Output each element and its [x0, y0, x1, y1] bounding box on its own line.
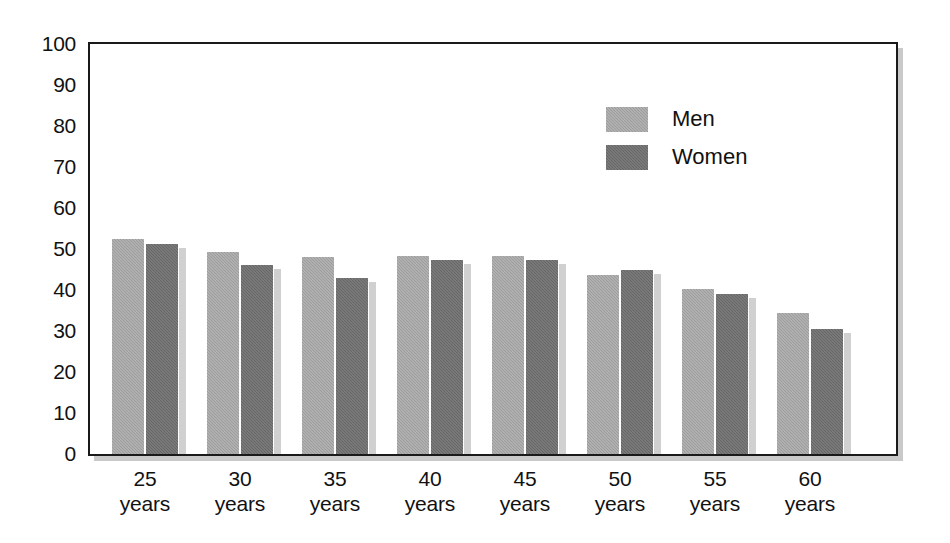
bar-women-35: [336, 278, 368, 454]
bar-group: [777, 44, 852, 454]
x-axis-label-25: 25years: [90, 466, 200, 516]
x-axis-label-60: 60years: [755, 466, 865, 516]
legend-item-women: Women: [606, 138, 747, 176]
bar-group: [492, 44, 567, 454]
x-axis-label-unit: years: [565, 491, 675, 516]
bar-shadow: [274, 269, 281, 454]
bar-chart-figure: 0102030405060708090100 25years30years35y…: [0, 0, 950, 543]
bar-women-45: [526, 260, 558, 454]
x-axis-label-number: 60: [755, 466, 865, 491]
bar-women-25: [146, 244, 178, 454]
bar-men-25: [112, 239, 144, 454]
bar-shadow: [559, 264, 566, 454]
bar-shadow: [179, 248, 186, 454]
x-axis-label-unit: years: [90, 491, 200, 516]
x-axis-label-unit: years: [375, 491, 485, 516]
y-axis-tick-label: 70: [0, 156, 76, 177]
bar-men-45: [492, 256, 524, 454]
bar-women-40: [431, 260, 463, 454]
legend-swatch-men-icon: [606, 107, 648, 132]
bar-women-60: [811, 329, 843, 454]
x-axis-label-number: 45: [470, 466, 580, 491]
x-axis-label-30: 30years: [185, 466, 295, 516]
x-axis-label-35: 35years: [280, 466, 390, 516]
bar-men-40: [397, 256, 429, 454]
chart-legend: Men Women: [606, 100, 747, 176]
x-axis-label-number: 40: [375, 466, 485, 491]
y-axis-tick-label: 10: [0, 402, 76, 423]
x-axis-label-number: 50: [565, 466, 675, 491]
y-axis-tick-label: 30: [0, 320, 76, 341]
x-axis-label-number: 25: [90, 466, 200, 491]
bar-men-30: [207, 252, 239, 454]
bar-men-60: [777, 313, 809, 454]
bar-shadow: [844, 333, 851, 454]
x-axis-label-50: 50years: [565, 466, 675, 516]
x-axis-label-40: 40years: [375, 466, 485, 516]
y-axis-tick-label: 20: [0, 361, 76, 382]
x-axis-label-number: 35: [280, 466, 390, 491]
x-axis-label-45: 45years: [470, 466, 580, 516]
y-axis-tick-label: 100: [0, 33, 76, 54]
legend-label-men: Men: [672, 108, 715, 130]
bar-group: [207, 44, 282, 454]
bar-shadow: [464, 264, 471, 454]
legend-swatch-women-icon: [606, 145, 648, 170]
x-axis-label-unit: years: [660, 491, 770, 516]
bar-shadow: [369, 282, 376, 454]
bar-shadow: [654, 274, 661, 455]
bar-women-55: [716, 294, 748, 454]
y-axis-tick-label: 50: [0, 238, 76, 259]
y-axis-tick-label: 40: [0, 279, 76, 300]
y-axis-tick-label: 60: [0, 197, 76, 218]
x-axis-label-unit: years: [755, 491, 865, 516]
bar-men-55: [682, 289, 714, 454]
legend-label-women: Women: [672, 146, 747, 168]
y-axis-tick-label: 80: [0, 115, 76, 136]
bar-women-30: [241, 265, 273, 454]
plot-frame-shadow-bottom: [94, 456, 903, 461]
bar-men-50: [587, 275, 619, 454]
bar-group: [397, 44, 472, 454]
bar-women-50: [621, 270, 653, 455]
bars-layer: [90, 44, 896, 454]
bar-men-35: [302, 257, 334, 454]
y-axis-tick-label: 90: [0, 74, 76, 95]
bar-group: [302, 44, 377, 454]
bar-group: [112, 44, 187, 454]
y-axis-tick-label: 0: [0, 443, 76, 464]
x-axis-label-55: 55years: [660, 466, 770, 516]
bar-shadow: [749, 298, 756, 454]
legend-item-men: Men: [606, 100, 747, 138]
plot-frame-shadow-right: [898, 48, 903, 460]
x-axis-label-unit: years: [470, 491, 580, 516]
x-axis-label-unit: years: [185, 491, 295, 516]
x-axis-label-unit: years: [280, 491, 390, 516]
x-axis-label-number: 30: [185, 466, 295, 491]
x-axis-label-number: 55: [660, 466, 770, 491]
